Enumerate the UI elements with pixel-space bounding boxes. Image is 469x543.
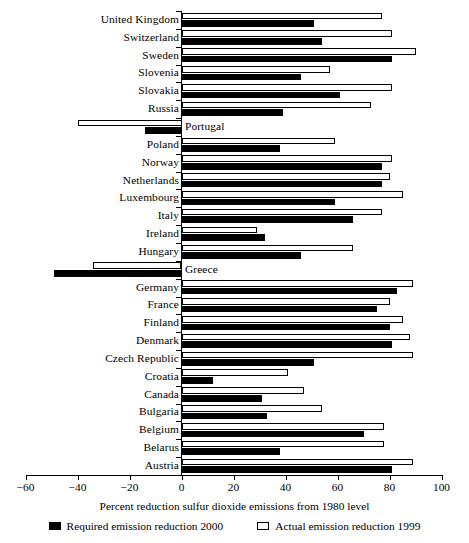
x-axis-tick-label: 20 [228, 481, 239, 493]
chart-row: Austria [0, 457, 469, 475]
bar-group [0, 11, 469, 29]
x-axis-tick [442, 475, 443, 480]
bar-required-2000 [182, 163, 382, 170]
bar-group [0, 118, 469, 136]
chart-row: Ireland [0, 225, 469, 243]
bar-required-2000 [182, 395, 263, 402]
bar-actual-1999 [182, 102, 372, 109]
x-axis-tick [182, 475, 183, 480]
x-axis-tick-label: −20 [121, 481, 139, 493]
chart-row: Hungary [0, 243, 469, 261]
chart-row: Germany [0, 279, 469, 297]
chart-row: Switzerland [0, 29, 469, 47]
bar-required-2000 [182, 359, 315, 366]
bar-actual-1999 [182, 209, 382, 216]
x-axis-tick-label: −40 [69, 481, 87, 493]
chart-row: Luxembourg [0, 189, 469, 207]
bar-group [0, 82, 469, 100]
x-axis-tick-label: −60 [17, 481, 35, 493]
chart-row: Slovenia [0, 65, 469, 83]
chart-row: Norway [0, 154, 469, 172]
plot-area: United KingdomSwitzerlandSwedenSloveniaS… [0, 0, 469, 478]
bar-group [0, 368, 469, 386]
x-axis-tick-label: 100 [433, 481, 450, 493]
bar-group [0, 172, 469, 190]
chart-row: Denmark [0, 332, 469, 350]
bar-actual-1999 [182, 13, 382, 20]
legend-label-actual: Actual emission reduction 1999 [275, 520, 420, 532]
bar-group [0, 350, 469, 368]
bar-actual-1999 [182, 405, 322, 412]
bar-group [0, 332, 469, 350]
bar-required-2000 [182, 74, 302, 81]
bar-actual-1999 [182, 441, 385, 448]
x-axis-tick [234, 475, 235, 480]
bar-group [0, 279, 469, 297]
bar-actual-1999 [182, 227, 257, 234]
bar-actual-1999 [182, 138, 335, 145]
x-axis-tick-label: 60 [332, 481, 343, 493]
bar-required-2000 [182, 252, 302, 259]
bar-group [0, 189, 469, 207]
bar-actual-1999 [182, 48, 416, 55]
bar-group [0, 421, 469, 439]
chart-row: Italy [0, 207, 469, 225]
chart-row: Sweden [0, 47, 469, 65]
bar-actual-1999 [182, 298, 390, 305]
bar-group [0, 29, 469, 47]
bar-group [0, 261, 469, 279]
bar-group [0, 457, 469, 475]
bar-actual-1999 [182, 191, 403, 198]
bar-group [0, 386, 469, 404]
bar-group [0, 65, 469, 83]
bar-group [0, 100, 469, 118]
chart-row: Bulgaria [0, 404, 469, 422]
bar-actual-1999 [182, 387, 304, 394]
chart-row: Portugal [0, 118, 469, 136]
bar-required-2000 [182, 413, 268, 420]
chart-row: Croatia [0, 368, 469, 386]
chart-legend: Required emission reduction 2000 Actual … [0, 520, 469, 532]
bar-actual-1999 [78, 120, 182, 127]
bar-actual-1999 [182, 280, 413, 287]
bar-required-2000 [182, 431, 364, 438]
x-axis-tick [286, 475, 287, 480]
chart-row: Slovakia [0, 82, 469, 100]
bar-actual-1999 [182, 459, 413, 466]
x-axis-tick [338, 475, 339, 480]
bar-actual-1999 [182, 423, 385, 430]
bar-required-2000 [182, 377, 213, 384]
bar-required-2000 [182, 56, 393, 63]
bar-actual-1999 [182, 369, 289, 376]
bar-required-2000 [182, 216, 354, 223]
bar-actual-1999 [182, 352, 413, 359]
chart-row: France [0, 297, 469, 315]
bar-group [0, 404, 469, 422]
x-axis-tick [130, 475, 131, 480]
bar-group [0, 207, 469, 225]
bar-required-2000 [182, 20, 315, 27]
bar-required-2000 [182, 234, 265, 241]
legend-swatch-required-icon [49, 522, 61, 530]
x-axis-tick-label: 40 [280, 481, 291, 493]
category-axis-line [181, 11, 182, 475]
chart-rows: United KingdomSwitzerlandSwedenSloveniaS… [0, 11, 469, 475]
bar-group [0, 47, 469, 65]
bar-required-2000 [182, 109, 283, 116]
x-axis-tick-label: 80 [384, 481, 395, 493]
bar-required-2000 [182, 466, 393, 473]
x-axis-tick-label: 0 [179, 481, 185, 493]
legend-swatch-actual-icon [257, 522, 269, 530]
bar-group [0, 297, 469, 315]
chart-row: United Kingdom [0, 11, 469, 29]
legend-item-actual: Actual emission reduction 1999 [257, 520, 420, 532]
bar-group [0, 154, 469, 172]
bar-actual-1999 [93, 262, 181, 269]
bar-required-2000 [182, 145, 281, 152]
bar-actual-1999 [182, 245, 354, 252]
bar-required-2000 [182, 324, 390, 331]
chart-row: Greece [0, 261, 469, 279]
bar-required-2000 [182, 341, 393, 348]
bar-group [0, 439, 469, 457]
x-axis-tick [26, 475, 27, 480]
